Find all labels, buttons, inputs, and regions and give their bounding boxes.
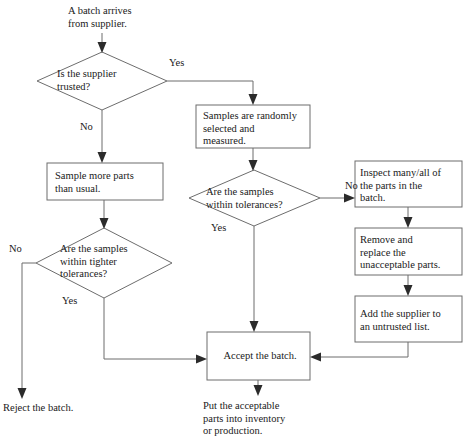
end-inventory-text: Put the acceptable parts into inventory … — [203, 400, 323, 438]
start-text: A batch arrives from supplier. — [68, 5, 188, 30]
arrowhead-tighter-no — [18, 388, 27, 399]
edge-add-to-accept — [318, 342, 408, 357]
process-add-untrusted-label: Add the supplier to an untrusted list. — [360, 308, 462, 333]
arrowhead-add-to-accept — [310, 353, 321, 362]
edge-tighter-yes — [104, 298, 199, 359]
edge-trusted-yes — [167, 81, 253, 97]
arrowhead-trusted-yes — [249, 94, 258, 105]
arrowhead-tighter-yes — [196, 355, 207, 364]
arrowhead-random-to-tolerances — [249, 160, 258, 171]
flowchart-diagram: A batch arrives from supplier. Is the su… — [0, 0, 468, 443]
edge-label-tolerances-no: No — [345, 180, 358, 192]
process-random-sample-label: Samples are randomly selected and measur… — [203, 110, 311, 148]
decision-within-tolerances-label: Are the samples within tolerances? — [206, 186, 310, 211]
process-inspect-many-label: Inspect many/all of the parts in the bat… — [360, 167, 462, 205]
end-reject-text: Reject the batch. — [3, 402, 113, 415]
edge-label-tolerances-yes: Yes — [211, 222, 226, 234]
decision-supplier-trusted-label: Is the supplier trusted? — [57, 68, 153, 93]
process-remove-replace-label: Remove and replace the unacceptable part… — [360, 234, 462, 272]
arrowhead-start-to-trusted — [98, 42, 107, 53]
process-accept-batch-label: Accept the batch. — [215, 350, 305, 363]
arrowhead-tolerances-yes — [250, 321, 259, 332]
decision-tighter-tolerances-label: Are the samples within tighter tolerance… — [60, 243, 160, 281]
arrowhead-inspect-to-remove — [404, 217, 413, 228]
flowchart-canvas — [0, 0, 468, 443]
edge-tighter-no — [22, 263, 36, 390]
process-sample-more-label: Sample more parts than usual. — [55, 170, 165, 195]
arrowhead-remove-to-add — [404, 285, 413, 296]
arrowhead-accept-to-inventory — [254, 385, 263, 396]
edge-label-tighter-no: No — [9, 243, 22, 255]
arrowhead-sample-more-to-tighter — [100, 218, 109, 229]
arrowhead-tolerances-no — [344, 194, 355, 203]
edge-label-trusted-yes: Yes — [169, 57, 184, 69]
arrowhead-trusted-no — [98, 152, 107, 163]
edge-label-tighter-yes: Yes — [62, 295, 77, 307]
edge-label-trusted-no: No — [80, 121, 93, 133]
